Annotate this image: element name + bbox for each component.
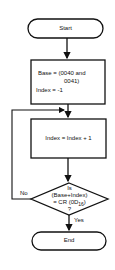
start-label: Start (28, 25, 103, 32)
decision-line-2: (Base+Index) (31, 192, 108, 199)
decision-line-1: Is (31, 185, 108, 192)
yes-label: Yes (74, 217, 90, 224)
decision-line-3-text: = CR (0D (53, 199, 78, 205)
decision-line-4: ? (31, 206, 108, 213)
no-label: No (20, 190, 32, 197)
init-line-3: Index = -1 (36, 87, 96, 94)
end-label: End (32, 237, 106, 244)
init-line-1: Base = (0040 and (38, 70, 108, 77)
increment-label: Index = Index + 1 (31, 135, 106, 142)
decision-line-3-end: ) (84, 199, 86, 205)
init-line-2: 0041) (64, 78, 104, 85)
